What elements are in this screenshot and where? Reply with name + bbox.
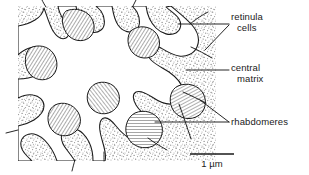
scale-bar-label: 1 µm bbox=[190, 158, 234, 169]
ommatidium-figure: retinula cells central matrix rhabdomere… bbox=[0, 0, 309, 175]
label-central-matrix: central matrix bbox=[231, 62, 263, 84]
label-retinula-cells-line2: cells bbox=[237, 22, 263, 33]
label-central-matrix-line1: central bbox=[231, 62, 263, 73]
label-rhabdomeres: rhabdomeres bbox=[231, 116, 288, 127]
retinula-cell-field bbox=[18, 6, 216, 161]
label-retinula-cells-line1: retinula bbox=[231, 11, 263, 22]
label-central-matrix-line2: matrix bbox=[237, 73, 263, 84]
label-retinula-cells: retinula cells bbox=[231, 11, 263, 33]
rhabdomere bbox=[128, 27, 160, 58]
rhabdomere bbox=[87, 82, 119, 114]
rhabdomere bbox=[170, 84, 205, 118]
rhabdomere bbox=[126, 111, 163, 147]
label-rhabdomeres-line1: rhabdomeres bbox=[231, 116, 288, 127]
